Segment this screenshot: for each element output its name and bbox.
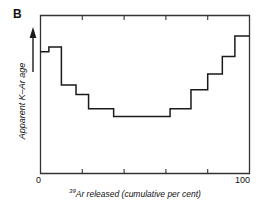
age-spectrum-step-line	[41, 36, 250, 117]
axis-frame	[41, 16, 250, 174]
axis-ticks	[82, 16, 207, 174]
age-spectrum-figure: B Apparent K–Ar age 39Ar released (cumul…	[0, 0, 270, 210]
axis-frame-box	[41, 16, 250, 174]
increasing-age-arrow-icon	[30, 27, 37, 72]
plot-area	[0, 0, 270, 210]
